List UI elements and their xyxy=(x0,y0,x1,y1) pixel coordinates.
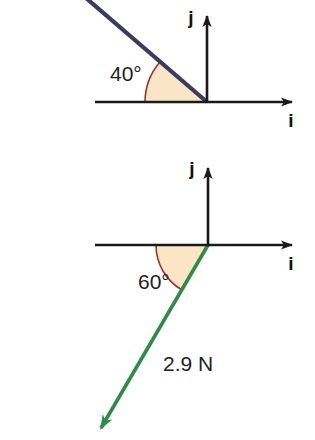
upper-diagram: j i 40° xyxy=(86,0,294,131)
physics-vector-figure: j i 40° j i 60° 2.9 N xyxy=(0,0,315,440)
i-axis-label-upper: i xyxy=(288,110,293,131)
figure-canvas: j i 40° j i 60° 2.9 N xyxy=(0,0,315,440)
j-axis-label-lower: j xyxy=(188,158,194,179)
angle-label-40: 40° xyxy=(110,62,142,85)
j-axis-label-upper: j xyxy=(187,7,193,28)
angle-label-60: 60° xyxy=(138,270,170,293)
force-magnitude-label: 2.9 N xyxy=(163,352,213,375)
i-axis-label-lower: i xyxy=(288,253,293,274)
lower-diagram: j i 60° 2.9 N xyxy=(95,158,294,428)
